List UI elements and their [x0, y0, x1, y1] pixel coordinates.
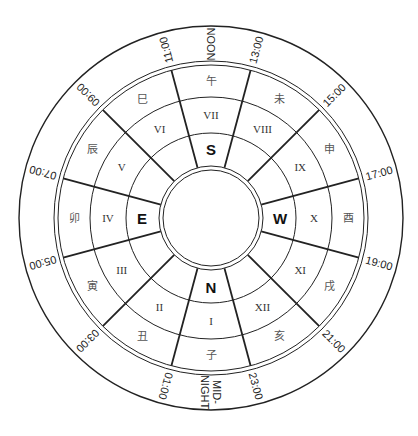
cardinal-label-n: N	[206, 279, 217, 296]
svg-text:09:00: 09:00	[74, 81, 102, 109]
branch-label: 戌	[324, 280, 335, 293]
time-label: 19:00	[364, 254, 394, 273]
branch-label: 申	[324, 143, 335, 156]
time-label: 07:00	[28, 164, 58, 183]
roman-numeral-label: III	[116, 264, 127, 276]
svg-text:19:00: 19:00	[364, 254, 394, 273]
svg-text:MID-: MID-	[211, 380, 223, 404]
cardinal-label-s: S	[206, 141, 216, 158]
svg-text:21:00: 21:00	[320, 327, 348, 355]
time-label: NOON	[205, 27, 217, 60]
roman-numeral-label: X	[310, 212, 318, 224]
time-label: 05:00	[28, 254, 58, 273]
segment-spoke	[171, 268, 197, 366]
segment-spoke	[224, 268, 250, 366]
branch-label: 酉	[343, 212, 354, 225]
roman-numeral-label: IX	[294, 161, 306, 173]
time-label: 09:00	[74, 81, 102, 109]
roman-numeral-label: V	[118, 161, 126, 173]
branch-label: 午	[206, 75, 217, 88]
svg-text:NOON: NOON	[205, 27, 217, 60]
time-label: 23:00	[247, 371, 266, 401]
cardinal-label-w: W	[273, 210, 288, 227]
roman-numeral-label: VIII	[253, 123, 272, 135]
branch-label: 卯	[69, 212, 80, 225]
branch-label: 子	[206, 349, 217, 362]
svg-text:NIGHT: NIGHT	[199, 375, 211, 410]
branch-label: 辰	[87, 143, 98, 156]
svg-text:03:00: 03:00	[74, 327, 102, 355]
svg-text:11:00: 11:00	[157, 35, 176, 64]
branch-label: 丑	[137, 330, 148, 343]
double-hour-clock-diagram: NOON13:0015:0017:0019:0021:0023:00MID-NI…	[0, 0, 418, 436]
svg-text:15:00: 15:00	[320, 81, 348, 109]
roman-numeral-label: II	[156, 301, 164, 313]
roman-numeral-label: XII	[255, 301, 271, 313]
roman-numeral-label: I	[209, 315, 213, 327]
time-label: 17:00	[364, 164, 394, 183]
time-label: 03:00	[74, 327, 102, 355]
time-label: MID-NIGHT	[199, 375, 223, 410]
branch-label: 亥	[274, 329, 285, 343]
ring-circle	[159, 166, 263, 270]
svg-text:17:00: 17:00	[364, 164, 394, 183]
roman-numeral-label: VII	[203, 109, 219, 121]
ring-circle	[163, 170, 259, 266]
segment-spoke	[63, 178, 161, 204]
roman-numeral-label: XI	[294, 264, 306, 276]
branch-label: 巳	[137, 93, 148, 106]
svg-text:23:00: 23:00	[247, 371, 266, 401]
svg-text:01:00: 01:00	[157, 371, 176, 401]
roman-numeral-label: VI	[154, 123, 166, 135]
branch-label: 寅	[87, 279, 98, 293]
segment-spoke	[63, 231, 161, 257]
segment-spoke	[224, 70, 250, 168]
segment-spoke	[261, 231, 359, 257]
segment-spoke	[171, 70, 197, 168]
branch-label: 未	[274, 93, 285, 106]
time-label: 11:00	[157, 35, 176, 64]
roman-numeral-label: IV	[102, 212, 114, 224]
svg-text:07:00: 07:00	[28, 164, 58, 183]
time-label: 01:00	[157, 371, 176, 401]
segment-spoke	[261, 178, 359, 204]
cardinal-label-e: E	[137, 210, 147, 227]
time-label: 15:00	[320, 81, 348, 109]
time-label: 21:00	[320, 327, 348, 355]
svg-text:13:00: 13:00	[247, 35, 266, 65]
time-label: 13:00	[247, 35, 266, 65]
svg-text:05:00: 05:00	[28, 254, 58, 273]
